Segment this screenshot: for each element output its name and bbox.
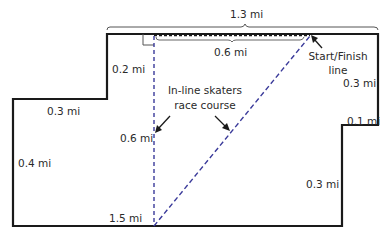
label-right-upper-vertical: 0.3 mi [343,77,376,89]
label-course-vertical: 0.6 mi [120,132,153,144]
start-finish-label-line2: line [303,64,373,76]
label-left-vertical: 0.4 mi [18,157,51,169]
course-diagonal-leg [154,36,310,226]
label-top-inner: 0.6 mi [214,46,247,58]
course-label-line1: In-line skaters [157,84,253,96]
course-label-line2: race course [157,99,253,111]
top-inner-brace [156,37,304,42]
label-total-width: 1.3 mi [230,8,263,20]
park-course-diagram [0,0,388,239]
park-boundary [13,34,378,226]
right-angle-marker [143,34,154,45]
course-arrow-left [158,116,170,129]
label-upper-left-vertical: 0.2 mi [112,63,145,75]
label-right-lower-vertical: 0.3 mi [306,178,339,190]
start-finish-label-line1: Start/Finish [303,50,373,62]
label-bottom: 1.5 mi [109,212,142,224]
label-left-step: 0.3 mi [47,105,80,117]
total-width-brace [107,24,378,30]
label-right-step: 0.1 mi [347,115,380,127]
